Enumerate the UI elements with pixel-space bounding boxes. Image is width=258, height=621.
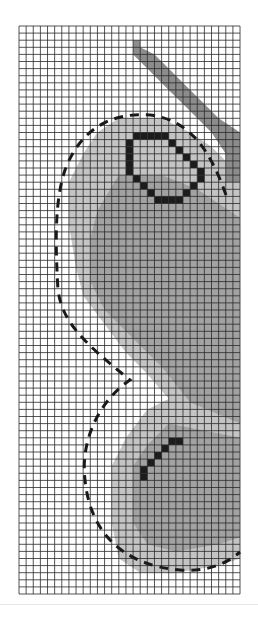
octagon-cell [162,196,169,203]
diagonal-cell [147,459,154,466]
octagon-cell [154,196,161,203]
octagon-cell [169,196,176,203]
octagon-cell [190,182,197,189]
diagonal-cell [140,466,147,473]
octagon-cell [169,140,176,147]
bottom-divider [0,604,258,605]
octagon-cell [140,182,147,189]
octagon-cell [133,133,140,140]
octagon-cell [154,133,161,140]
octagon-cell [176,147,183,154]
grid-lines [19,26,240,594]
diagonal-cell [176,438,183,445]
octagon-cell [190,161,197,168]
octagon-cell [126,154,133,161]
diagonal-cell [140,473,147,480]
diagonal-cell [154,452,161,459]
octagon-cell [147,133,154,140]
octagon-cell [126,161,133,168]
octagon-cell [197,168,204,175]
octagon-cell [183,154,190,161]
diagonal-cell [169,438,176,445]
octagon-cell [147,189,154,196]
grid-figure [0,0,258,621]
diagonal-cell [162,445,169,452]
octagon-cell [176,196,183,203]
octagon-cell [126,147,133,154]
octagon-cell [126,168,133,175]
octagon-cell [197,175,204,182]
octagon-cell [162,133,169,140]
octagon-cell [183,189,190,196]
octagon-cell [140,133,147,140]
octagon-cell [133,175,140,182]
octagon-cell [126,140,133,147]
